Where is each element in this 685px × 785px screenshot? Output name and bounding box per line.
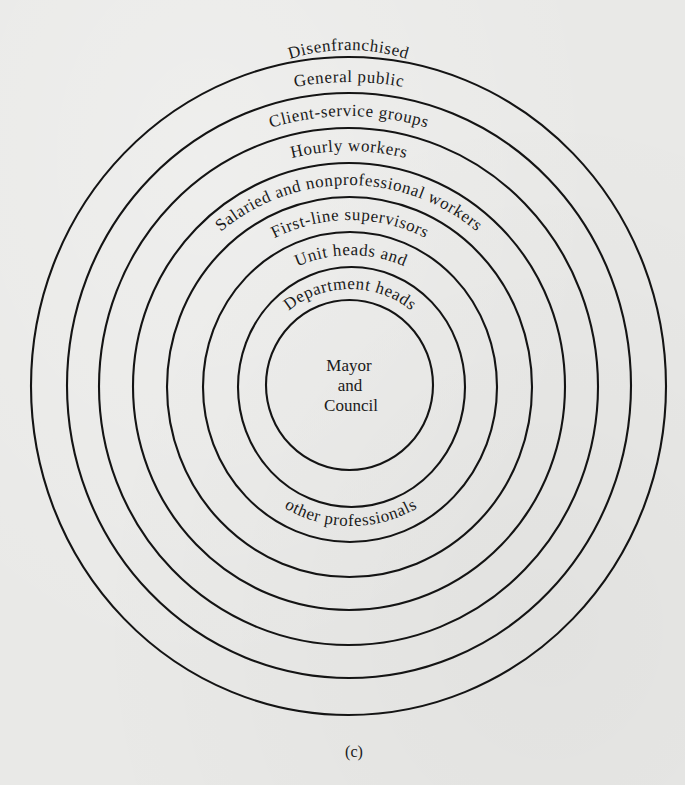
center-line-mayor: Mayor — [326, 356, 372, 375]
label-general-public: General public — [292, 67, 405, 91]
label-first-line-supervisors-text: First-line supervisors — [268, 205, 433, 242]
label-unit-heads-text: Unit heads and — [292, 240, 410, 270]
label-unit-heads: Unit heads and — [292, 240, 410, 270]
center-line-and: and — [338, 376, 363, 395]
figure-caption: (c) — [345, 743, 363, 761]
label-hourly-workers: Hourly workers — [289, 136, 410, 162]
label-disenfranchised: Disenfranchised — [286, 35, 412, 63]
label-first-line-supervisors: First-line supervisors — [268, 205, 433, 242]
label-disenfranchised-text: Disenfranchised — [286, 35, 412, 63]
concentric-circles-diagram: Disenfranchised General public Client-se… — [0, 0, 685, 785]
center-line-council: Council — [324, 396, 378, 415]
label-general-public-text: General public — [292, 67, 405, 91]
figure-page: Disenfranchised General public Client-se… — [0, 0, 685, 785]
label-other-professionals-text: other professionals — [282, 495, 420, 530]
label-hourly-workers-text: Hourly workers — [289, 136, 410, 162]
label-other-professionals: other professionals — [282, 495, 420, 530]
